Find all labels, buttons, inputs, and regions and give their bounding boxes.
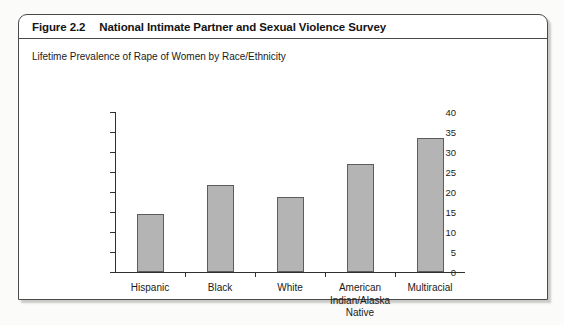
y-axis-tick-label: 0 [451,267,456,278]
y-axis-tick [110,152,115,153]
figure-box: Figure 2.2 National Intimate Partner and… [18,14,548,300]
x-axis-tick [255,272,256,277]
y-axis-tick [110,252,115,253]
category-label: American Indian/Alaska Native [325,282,395,320]
category-label: White [255,282,325,295]
y-axis-tick-label: 30 [445,147,456,158]
x-axis-tick [325,272,326,277]
figure-title-bar: Figure 2.2 National Intimate Partner and… [19,15,547,39]
y-axis-tick-label: 15 [445,207,456,218]
y-axis-tick-label: 40 [445,107,456,118]
y-axis-tick [110,172,115,173]
bar [137,214,164,272]
y-axis-tick [110,232,115,233]
y-axis-tick [110,212,115,213]
x-axis-tick [395,272,396,277]
figure-number-label: Figure 2.2 [32,21,85,33]
category-label: Black [185,282,255,295]
x-axis-tick [185,272,186,277]
y-axis-line [115,112,116,272]
y-axis-tick-label: 35 [445,127,456,138]
figure-title: National Intimate Partner and Sexual Vio… [99,21,386,33]
y-axis-tick [110,192,115,193]
x-axis-line [115,272,465,273]
category-label: Hispanic [115,282,185,295]
y-axis-tick-label: 20 [445,187,456,198]
bar [277,197,304,272]
y-axis-tick [110,272,115,273]
y-axis-tick-label: 10 [445,227,456,238]
figure-body: Lifetime Prevalence of Rape of Women by … [19,39,547,299]
plot-area: 0510152025303540 HispanicBlackWhiteAmeri… [115,112,465,272]
y-axis-tick-label: 25 [445,167,456,178]
bar [417,138,444,272]
bar [347,164,374,272]
bar-chart: 0510152025303540 HispanicBlackWhiteAmeri… [19,39,549,299]
bar [207,185,234,272]
y-axis-tick [110,132,115,133]
y-axis-tick-label: 5 [451,247,456,258]
y-axis-tick [110,112,115,113]
category-label: Multiracial [395,282,465,295]
